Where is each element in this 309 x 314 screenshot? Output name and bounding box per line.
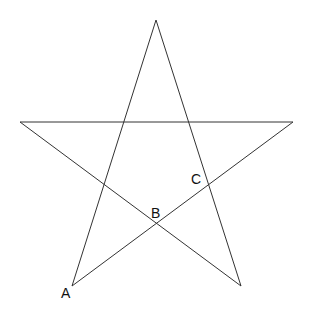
edge-left-to-bottom-right (20, 122, 241, 286)
label-c: C (191, 171, 201, 187)
edge-right-to-bottom-left (72, 122, 293, 286)
label-a: A (61, 285, 71, 301)
label-b: B (151, 205, 160, 221)
pentagram-diagram: A B C (0, 0, 309, 314)
edge-top-to-bottom-right (156, 20, 241, 286)
edge-top-to-bottom-left (72, 20, 156, 286)
